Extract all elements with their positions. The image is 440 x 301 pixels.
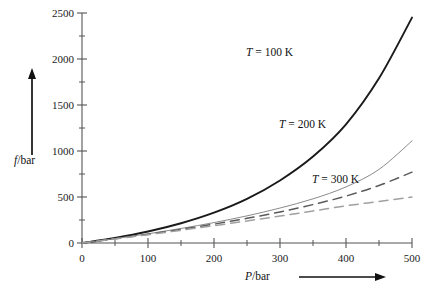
y-tick-label: 0 (36, 238, 74, 249)
curve-label-300k-value: = 300 K (318, 173, 359, 185)
x-axis-title-symbol: P (245, 270, 252, 282)
y-axis-title: f/bar (14, 155, 35, 167)
x-tick-label: 0 (62, 253, 102, 264)
x-tick-label: 200 (194, 253, 234, 264)
y-axis-title-unit: /bar (17, 154, 35, 166)
x-axis-arrow-head (375, 273, 386, 281)
y-axis-arrow-head (28, 68, 36, 79)
x-tick-label: 400 (326, 253, 366, 264)
axes (77, 13, 412, 248)
curve-label-200k-value: = 200 K (285, 118, 326, 130)
y-tick-label: 1500 (36, 100, 74, 111)
curve-series-1 (82, 141, 412, 243)
curve-label-100k-value: = 100 K (252, 46, 293, 58)
x-axis-title: P/bar (245, 271, 270, 283)
x-axis-title-unit: /bar (252, 270, 270, 282)
y-tick-label: 1000 (36, 146, 74, 157)
curve-label-300k: T = 300 K (312, 174, 359, 186)
curve-label-100k: T = 100 K (246, 47, 293, 59)
y-tick-label: 2000 (36, 54, 74, 65)
curve-label-200k: T = 200 K (279, 119, 326, 131)
curve-series-2 (82, 172, 412, 243)
fugacity-pressure-chart: 25002000150010005000 0100200300400500 T … (0, 0, 440, 301)
x-tick-label: 100 (128, 253, 168, 264)
curve-series-3 (82, 197, 412, 243)
y-tick-label: 2500 (36, 8, 74, 19)
x-tick-label: 500 (392, 253, 432, 264)
x-tick-label: 300 (260, 253, 300, 264)
y-tick-label: 500 (36, 192, 74, 203)
